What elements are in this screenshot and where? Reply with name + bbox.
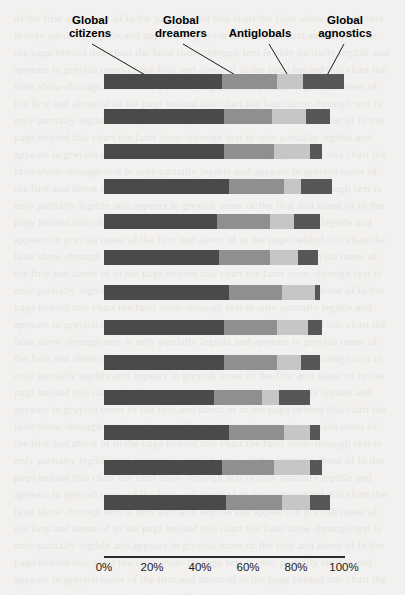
- bar-segment-global-agnostics: [301, 355, 320, 370]
- bar-segment-global-agnostics: [303, 74, 344, 89]
- stacked-bar: [104, 179, 344, 194]
- bar-segment-global-agnostics: [298, 250, 317, 265]
- bar-segment-antiglobals: [274, 144, 310, 159]
- stacked-bar: [104, 214, 344, 229]
- bar-segment-global-citizens: [104, 214, 217, 229]
- bar-segment-global-citizens: [104, 285, 229, 300]
- bar-segment-global-citizens: [104, 74, 222, 89]
- x-axis-line: [104, 556, 345, 558]
- stacked-bar: [104, 144, 344, 159]
- stacked-bar: [104, 109, 344, 124]
- bar-segment-antiglobals: [282, 285, 316, 300]
- stacked-bar-chart: Global citizens Global dreamers Antiglob…: [0, 0, 405, 595]
- bar-segment-global-agnostics: [308, 320, 322, 335]
- bar-segment-antiglobals: [277, 320, 308, 335]
- bar-segment-global-citizens: [104, 425, 229, 440]
- legend-label-antiglobals: Antiglobals: [222, 27, 298, 40]
- bar-segment-global-dreamers: [224, 144, 274, 159]
- bar-segment-global-agnostics: [279, 390, 310, 405]
- x-tick-label: 20%: [132, 561, 172, 573]
- legend-line-2: dreamers: [155, 27, 207, 39]
- x-tick-label: 100%: [324, 561, 364, 573]
- bar-segment-global-citizens: [104, 250, 219, 265]
- stacked-bar: [104, 390, 344, 405]
- legend-label-global-citizens: Global citizens: [48, 14, 132, 39]
- bar-segment-antiglobals: [270, 250, 299, 265]
- bar-segment-global-agnostics: [301, 179, 332, 194]
- bar-segment-antiglobals: [277, 74, 303, 89]
- bar-segment-antiglobals: [277, 355, 301, 370]
- bar-segment-antiglobals: [272, 109, 306, 124]
- bar-segment-global-agnostics: [306, 109, 330, 124]
- bar-segment-global-agnostics: [310, 460, 322, 475]
- bar-segment-antiglobals: [282, 495, 311, 510]
- x-tick-label: 60%: [228, 561, 268, 573]
- legend-line-1: Global: [327, 14, 363, 26]
- bar-segment-global-agnostics: [310, 495, 329, 510]
- bar-segment-global-agnostics: [310, 144, 322, 159]
- legend-line-1: Global: [72, 14, 108, 26]
- legend-line-2: Antiglobals: [229, 27, 292, 39]
- stacked-bar: [104, 320, 344, 335]
- bar-segment-global-dreamers: [214, 390, 262, 405]
- legend-line-2: citizens: [69, 27, 111, 39]
- bar-segment-global-dreamers: [226, 495, 281, 510]
- bar-segment-antiglobals: [284, 425, 310, 440]
- bar-segment-global-dreamers: [229, 179, 284, 194]
- legend-label-global-agnostics: Global agnostics: [303, 14, 387, 39]
- stacked-bar: [104, 250, 344, 265]
- x-tick-label: 0%: [84, 561, 124, 573]
- x-tick-label: 40%: [180, 561, 220, 573]
- legend-line-1: Global: [163, 14, 199, 26]
- bar-segment-global-dreamers: [229, 285, 282, 300]
- bar-segment-antiglobals: [284, 179, 301, 194]
- bar-segment-global-dreamers: [224, 355, 277, 370]
- bar-segment-global-dreamers: [224, 109, 272, 124]
- stacked-bar: [104, 285, 344, 300]
- bar-segment-global-dreamers: [219, 250, 269, 265]
- bar-segment-global-citizens: [104, 109, 224, 124]
- x-tick-label: 80%: [276, 561, 316, 573]
- bar-segment-global-citizens: [104, 144, 224, 159]
- bar-segment-antiglobals: [274, 460, 310, 475]
- bar-segment-global-dreamers: [222, 74, 277, 89]
- bar-segment-global-citizens: [104, 390, 214, 405]
- bar-segment-global-agnostics: [294, 214, 320, 229]
- legend-label-global-dreamers: Global dreamers: [138, 14, 224, 39]
- bar-segment-global-dreamers: [229, 425, 284, 440]
- stacked-bar: [104, 74, 344, 89]
- stacked-bar: [104, 425, 344, 440]
- bar-segment-global-citizens: [104, 355, 224, 370]
- bar-segment-global-agnostics: [310, 425, 320, 440]
- stacked-bar: [104, 460, 344, 475]
- bar-segment-global-dreamers: [224, 320, 277, 335]
- legend-line-2: agnostics: [318, 27, 372, 39]
- stacked-bar: [104, 495, 344, 510]
- bar-segment-global-citizens: [104, 179, 229, 194]
- bar-segment-antiglobals: [270, 214, 294, 229]
- bar-segment-global-dreamers: [222, 460, 275, 475]
- bar-segment-global-citizens: [104, 495, 226, 510]
- bar-segment-antiglobals: [262, 390, 279, 405]
- bar-segment-global-citizens: [104, 320, 224, 335]
- stacked-bar: [104, 355, 344, 370]
- bar-segment-global-agnostics: [315, 285, 320, 300]
- bar-segment-global-dreamers: [217, 214, 270, 229]
- bar-segment-global-citizens: [104, 460, 222, 475]
